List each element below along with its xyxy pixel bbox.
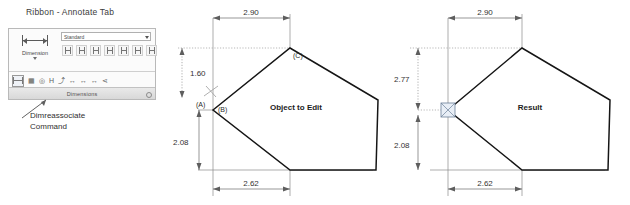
- dimension-left-lower-value: 2.08: [394, 141, 410, 150]
- dimreassociate-tool[interactable]: [12, 75, 24, 87]
- ribbon-figure: Ribbon - Annotate Tab Dimension Standard: [0, 0, 168, 150]
- dimension-jogged-icon[interactable]: H: [49, 76, 54, 86]
- radius-dimension-tool[interactable]: [118, 45, 129, 56]
- dimension-update-icon[interactable]: ⋖: [102, 76, 108, 86]
- aligned-dimension-tool[interactable]: [76, 45, 87, 56]
- snap-marker-a: [204, 86, 218, 97]
- dimension-left-upper-value: 2.77: [394, 75, 410, 84]
- ribbon-figure-title: Ribbon - Annotate Tab: [26, 7, 114, 17]
- vertex-label-c: (C): [293, 52, 303, 60]
- ribbon-panel-upper-row: Dimension Standard: [9, 29, 155, 72]
- dimension-button-label: Dimension: [22, 50, 48, 56]
- drawing-result: 2.90 2.77 2.08 2.62 Result: [400, 0, 630, 205]
- dimension-top: 2.90: [213, 8, 290, 21]
- dimension-top-value: 2.90: [243, 8, 259, 17]
- dimension-baseline-icon[interactable]: ↔: [80, 76, 87, 86]
- vertex-label-b: (B): [218, 106, 227, 114]
- ordinate-dimension-tool[interactable]: [146, 45, 157, 56]
- linear-dimension-tool[interactable]: [62, 45, 73, 56]
- dimension-space-icon[interactable]: ↔: [91, 76, 98, 86]
- chevron-down-icon[interactable]: [145, 36, 149, 39]
- linear-dimension-icon: [20, 34, 50, 48]
- drawing-object-to-edit: 2.90 1.60 2.08 2.62: [168, 0, 400, 205]
- dimreassociate-callout: Dimreassociate Command: [30, 110, 85, 132]
- dimensions-panel-label: Dimensions: [67, 91, 98, 97]
- vertex-grip[interactable]: [441, 103, 455, 117]
- result-caption: Result: [518, 103, 543, 112]
- angular-dimension-tool[interactable]: [90, 45, 101, 56]
- object-to-edit-svg: 2.90 1.60 2.08 2.62: [168, 0, 400, 205]
- ribbon-panel: Dimension Standard ▦ ◎ H ⤴: [8, 28, 156, 100]
- dimension-inspect-icon[interactable]: ◎: [39, 76, 45, 86]
- dimension-left-lower: 2.08: [173, 110, 202, 170]
- result-svg: 2.90 2.77 2.08 2.62 Result: [400, 0, 630, 205]
- dimension-bottom-value: 2.62: [477, 179, 493, 188]
- dimension-style-value: Standard: [62, 34, 84, 40]
- dimension-bottom: 2.62: [213, 179, 290, 192]
- dimension-style-dropdown[interactable]: Standard: [61, 32, 151, 41]
- callout-line-2: Command: [30, 122, 67, 131]
- object-caption: Object to Edit: [270, 103, 322, 112]
- dimension-left-upper: 1.60: [180, 48, 207, 98]
- dimension-left-upper-value: 1.60: [190, 69, 206, 78]
- dimension-bottom-value: 2.62: [243, 179, 259, 188]
- dimension-bottom: 2.62: [448, 179, 522, 192]
- chevron-down-icon[interactable]: [33, 57, 37, 60]
- dimension-jog-line-icon[interactable]: ⤴: [58, 76, 65, 86]
- panel-dialog-launcher-icon[interactable]: [146, 92, 152, 98]
- dimension-top-value: 2.90: [477, 8, 493, 17]
- dimension-tools-row: [62, 45, 157, 56]
- diameter-dimension-tool[interactable]: [132, 45, 143, 56]
- dimension-top: 2.90: [448, 8, 522, 21]
- dimension-button[interactable]: Dimension: [13, 31, 57, 69]
- dimension-break-icon[interactable]: ▦: [28, 76, 35, 86]
- arc-length-dimension-tool[interactable]: [104, 45, 115, 56]
- callout-line-1: Dimreassociate: [30, 111, 85, 120]
- dimension-left-lower-value: 2.08: [173, 138, 189, 147]
- dimension-continue-icon[interactable]: ↔: [69, 76, 76, 86]
- vertex-label-a: (A): [196, 101, 205, 109]
